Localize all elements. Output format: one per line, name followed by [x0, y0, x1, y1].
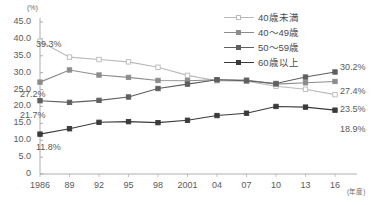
data-point [185, 73, 189, 77]
data-point [185, 118, 189, 122]
chart-legend: 40歳未満40～49歳50～59歳60歳以上 [224, 11, 299, 69]
legend-item-1[interactable]: 40～49歳 [224, 26, 299, 39]
legend-label: 40～49歳 [258, 27, 299, 38]
data-point [274, 104, 278, 108]
data-point [67, 68, 71, 72]
line-chart: (%) 05.010.015.020.025.030.035.040.045.0… [0, 0, 377, 205]
data-point [67, 55, 71, 59]
data-point [185, 82, 189, 86]
y-tick-label: 40.0 [3, 34, 31, 43]
data-point [156, 65, 160, 69]
data-point [333, 79, 337, 83]
data-point [97, 73, 101, 77]
data-point [244, 111, 248, 115]
point-value-label: 27.2% [20, 89, 46, 99]
data-point [244, 79, 248, 83]
x-axis-title: (年度) [347, 186, 365, 196]
chart-canvas [0, 0, 377, 205]
data-point [215, 78, 219, 82]
data-point [333, 108, 337, 112]
axis-group [40, 18, 357, 177]
data-point [156, 86, 160, 90]
data-point [274, 81, 278, 85]
y-tick-label: 30.0 [3, 68, 31, 77]
y-tick-label: 5.0 [3, 152, 31, 161]
legend-item-0[interactable]: 40歳未満 [224, 11, 299, 24]
data-point [156, 78, 160, 82]
data-point [126, 75, 130, 79]
data-point [156, 120, 160, 124]
data-point [38, 80, 42, 84]
data-point [38, 99, 42, 103]
legend-marker-icon [224, 27, 254, 38]
point-value-label: 21.7% [20, 110, 46, 120]
legend-item-3[interactable]: 60歳以上 [224, 56, 299, 69]
point-value-label: 11.8% [36, 142, 61, 152]
point-value-label: 23.5% [340, 104, 366, 114]
data-point [215, 113, 219, 117]
legend-label: 40歳未満 [258, 12, 299, 23]
data-point [333, 70, 337, 74]
data-point [67, 100, 71, 104]
legend-label: 50～59歳 [258, 42, 299, 53]
legend-label: 60歳以上 [258, 57, 299, 68]
data-point [97, 98, 101, 102]
y-tick-label: 45.0 [3, 17, 31, 26]
y-tick-label: 0 [3, 169, 31, 178]
point-value-label: 39.3% [36, 39, 62, 49]
data-point [126, 95, 130, 99]
data-point [333, 92, 337, 96]
data-point [126, 119, 130, 123]
legend-marker-icon [224, 42, 254, 53]
data-point [303, 81, 307, 85]
point-value-label: 30.2% [340, 62, 366, 72]
data-point [303, 87, 307, 91]
data-point [38, 132, 42, 136]
legend-item-2[interactable]: 50～59歳 [224, 41, 299, 54]
legend-marker-icon [224, 12, 254, 23]
data-point [97, 120, 101, 124]
y-axis-unit-label: (%) [27, 4, 38, 11]
legend-marker-icon [224, 57, 254, 68]
y-tick-label: 10.0 [3, 135, 31, 144]
data-point [67, 127, 71, 131]
data-point [97, 57, 101, 61]
y-tick-label: 35.0 [3, 51, 31, 60]
data-point [303, 75, 307, 79]
data-point [303, 105, 307, 109]
point-value-label: 27.4% [340, 86, 366, 96]
point-value-label: 18.9% [340, 124, 366, 134]
data-point [126, 60, 130, 64]
